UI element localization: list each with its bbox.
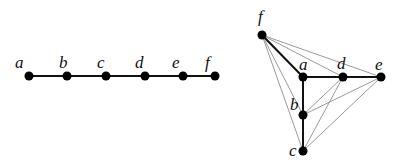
graph-diagram: abcdef fadebc xyxy=(0,0,401,163)
node-c xyxy=(299,147,308,156)
node-label-d: d xyxy=(337,54,346,73)
node-label-a: a xyxy=(15,53,24,72)
edge-f-a xyxy=(262,35,303,77)
gray-edge-b-e xyxy=(303,77,381,115)
node-f xyxy=(258,31,267,40)
node-a xyxy=(25,72,34,81)
node-label-b: b xyxy=(290,95,299,114)
gray-edge-b-d xyxy=(303,77,343,115)
node-label-d: d xyxy=(135,53,144,72)
node-label-f: f xyxy=(205,53,212,72)
node-label-a: a xyxy=(299,55,308,74)
node-label-c: c xyxy=(97,53,105,72)
node-b xyxy=(299,111,308,120)
node-c xyxy=(102,72,111,81)
node-label-e: e xyxy=(172,53,180,72)
gray-edge-f-c xyxy=(262,35,303,151)
tree-graph: fadebc xyxy=(258,7,386,160)
node-d xyxy=(141,72,150,81)
gray-edge-c-d xyxy=(303,77,343,151)
node-label-b: b xyxy=(59,53,68,72)
gray-edge-c-e xyxy=(303,77,381,151)
node-b xyxy=(63,72,72,81)
node-f xyxy=(211,72,220,81)
node-label-f: f xyxy=(258,7,265,26)
node-e xyxy=(179,72,188,81)
node-d xyxy=(339,73,348,82)
node-label-e: e xyxy=(375,55,383,74)
node-label-c: c xyxy=(289,141,297,160)
path-graph: abcdef xyxy=(15,53,220,81)
